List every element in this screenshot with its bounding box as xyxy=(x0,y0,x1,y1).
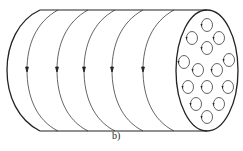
cell-circle xyxy=(179,56,190,69)
cylinder-left-end xyxy=(7,10,40,131)
cylinder-diagram xyxy=(0,0,243,151)
cell-circle xyxy=(223,81,234,94)
cell-circle xyxy=(202,19,213,32)
cell-circle xyxy=(193,64,204,77)
cell-circle xyxy=(202,111,213,124)
cell-arrows xyxy=(178,24,225,119)
cell-circle xyxy=(212,64,223,77)
cell-circle xyxy=(202,81,213,94)
end-cells xyxy=(179,19,235,124)
current-loop xyxy=(26,10,58,131)
cell-circle xyxy=(224,54,235,67)
cell-circle xyxy=(183,81,194,94)
current-loop xyxy=(111,10,143,131)
cell-circle xyxy=(191,98,202,111)
cylinder-cross-section xyxy=(176,10,238,131)
cell-circle xyxy=(214,32,225,45)
cell-circle xyxy=(214,98,225,111)
current-loop xyxy=(142,10,174,131)
figure-caption: b) xyxy=(112,130,120,141)
current-loop xyxy=(83,10,115,131)
cell-circle xyxy=(202,42,213,55)
cell-circle xyxy=(187,32,198,45)
